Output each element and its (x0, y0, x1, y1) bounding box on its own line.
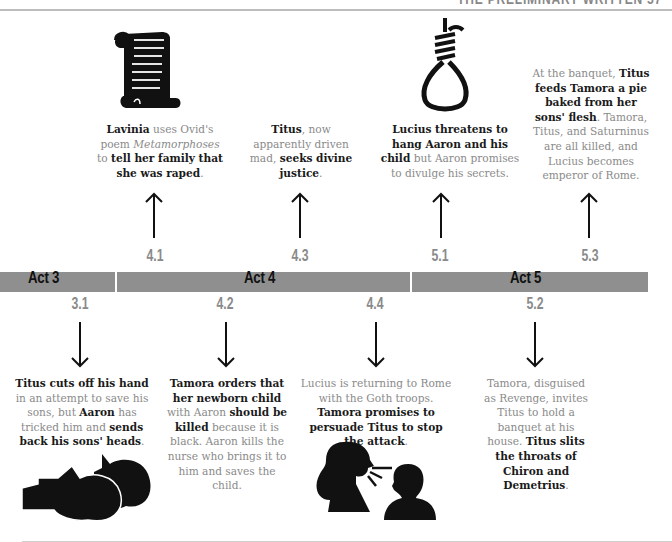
scene-number-4-4: 4.4 (366, 294, 383, 314)
event-3-1-caption: Titus cuts off his hand in an attempt to… (12, 376, 152, 449)
event-4-3-caption: Titus, now apparently driven mad, seeks … (245, 122, 357, 180)
speaking-heads-icon (312, 438, 442, 524)
arrow-up-icon (289, 192, 311, 240)
arrow-up-icon (430, 192, 452, 240)
caption-text: . (565, 479, 568, 491)
header-rule (0, 9, 672, 11)
scene-number-5-2: 5.2 (526, 294, 543, 314)
caption-text: Lucius is returning to Rome with the Got… (301, 377, 451, 404)
caption-emphasis: Lavinia (107, 123, 150, 135)
scene-number-4-1: 4.1 (146, 246, 163, 266)
act-4-label: Act 4 (244, 268, 275, 288)
scroll-icon (110, 28, 182, 112)
event-4-2-caption: Tamora orders that her newborn child wit… (166, 376, 288, 493)
arrow-down-icon (365, 322, 387, 368)
caption-emphasis: tell her family that she was raped (111, 152, 223, 179)
caption-emphasis: Aaron (79, 406, 114, 418)
caption-emphasis: seeks divine justice (280, 152, 353, 179)
event-5-3-caption: At the banquet, Titus feeds Tamora a pie… (532, 66, 650, 183)
event-4-1-caption: Lavinia uses Ovid's poem Metamorphoses t… (95, 122, 225, 180)
caption-text: to (97, 152, 111, 164)
caption-text: . (319, 167, 322, 179)
severed-heads-icon (18, 450, 154, 524)
scene-number-4-3: 4.3 (291, 246, 308, 266)
caption-text: At the banquet, (532, 67, 619, 79)
caption-text: . (141, 435, 144, 447)
noose-icon (415, 18, 475, 116)
arrow-down-icon (215, 322, 237, 368)
scene-number-5-1: 5.1 (431, 246, 448, 266)
caption-emphasis: Tamora orders that her newborn child (170, 377, 285, 404)
caption-text: but Aaron promises to divulge his secret… (391, 152, 519, 179)
caption-text: Metamorphoses (133, 138, 219, 150)
arrow-up-icon (143, 192, 165, 240)
scene-number-4-2: 4.2 (216, 294, 233, 314)
caption-emphasis: Titus cuts off his hand (15, 377, 148, 389)
event-5-1-caption: Lucius threatens to hang Aaron and his c… (380, 122, 520, 180)
event-5-2-caption: Tamora, disguised as Revenge, invites Ti… (480, 376, 592, 493)
scene-number-5-3: 5.3 (581, 246, 598, 266)
act-3-label: Act 3 (28, 268, 59, 288)
caption-text: with Aaron (167, 406, 230, 418)
scene-number-3-1: 3.1 (71, 294, 88, 314)
caption-emphasis: Titus (271, 123, 301, 135)
arrow-down-icon (524, 322, 546, 368)
act-5-label: Act 5 (510, 268, 541, 288)
caption-text: . (200, 167, 203, 179)
arrow-down-icon (69, 322, 91, 368)
running-header: THE PRELIMINARY WRITTEN 57 (457, 0, 662, 7)
arrow-up-icon (578, 192, 600, 240)
